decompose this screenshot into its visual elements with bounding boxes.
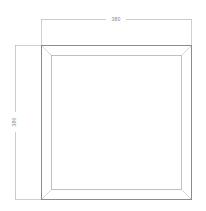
- miter-line-top-left: [42, 46, 52, 56]
- technical-drawing-canvas: 380 380: [0, 0, 206, 211]
- left-dimension-group: 380: [11, 46, 42, 200]
- cad-drawing-svg: 380 380: [0, 0, 206, 211]
- panel-inner-opening: [52, 56, 182, 190]
- top-dimension-label: 380: [111, 16, 120, 22]
- miter-line-bottom-left: [42, 190, 52, 200]
- top-dimension-group: 380: [42, 16, 192, 45]
- miter-line-bottom-right: [182, 190, 192, 200]
- miter-line-top-right: [182, 46, 192, 56]
- left-dimension-label: 380: [11, 117, 17, 126]
